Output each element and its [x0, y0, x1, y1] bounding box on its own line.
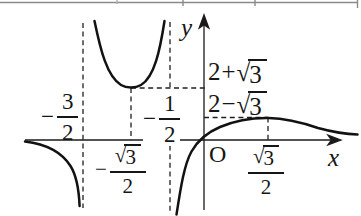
radicand: 3: [248, 59, 267, 87]
curve-left-branch: [25, 142, 80, 207]
radical-sign: √: [253, 146, 265, 167]
radical-group: √3: [237, 91, 267, 119]
fraction-numerator: 1: [159, 92, 181, 120]
fraction-numerator: √3: [248, 145, 284, 174]
fraction-numerator: √3: [110, 144, 146, 173]
label-2-plus-sqrt3: 2+√3: [208, 59, 267, 87]
fraction: √3 2: [110, 144, 146, 197]
label-sqrt3-2: √3 2: [248, 145, 284, 198]
fraction-denominator: 2: [60, 118, 76, 144]
radical-group: √3: [253, 145, 279, 169]
radicand: 3: [263, 145, 280, 169]
label-2-minus-sqrt3: 2−√3: [208, 91, 267, 119]
label-neg-1-2: − 1 2: [143, 92, 180, 146]
radical-sign: √: [237, 60, 251, 85]
radical-group: √3: [237, 59, 267, 87]
y-axis-label: y: [181, 15, 192, 40]
radical-sign: √: [237, 92, 251, 117]
fraction: 1 2: [159, 92, 181, 146]
fraction-denominator: 2: [259, 174, 274, 198]
radical-group: √3: [115, 144, 141, 168]
label-2-plus-sqrt3-prefix: 2+: [208, 59, 237, 84]
minus-sign: −: [143, 107, 159, 130]
curve-middle-branch: [95, 21, 165, 87]
label-neg-3-2: − 3 2: [41, 90, 78, 144]
label-neg-sqrt3-2: − √3 2: [95, 144, 146, 197]
figure-canvas: y x O 2+√3 2−√3 − 3 2 − 1 2 − √3 2 √3 2: [0, 0, 361, 216]
radicand: 3: [124, 144, 141, 168]
fraction: √3 2: [248, 145, 284, 198]
fraction-numerator: 3: [57, 90, 79, 118]
radicand: 3: [248, 91, 267, 119]
label-2-minus-sqrt3-prefix: 2−: [208, 91, 237, 116]
table-border-fragment: [0, 0, 358, 8]
radical-sign: √: [115, 145, 127, 166]
origin-label: O: [209, 142, 226, 166]
minus-sign: −: [41, 105, 57, 128]
x-axis-label: x: [328, 145, 339, 170]
minus-sign: −: [95, 159, 110, 180]
fraction-denominator: 2: [121, 173, 136, 197]
fraction-denominator: 2: [162, 120, 178, 146]
fraction: 3 2: [57, 90, 79, 144]
